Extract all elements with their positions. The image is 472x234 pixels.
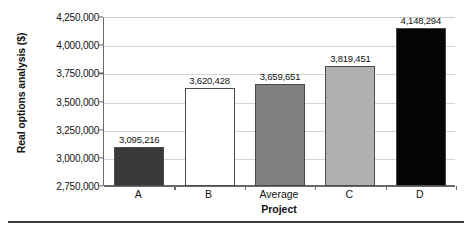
- bar-value-label: 4,148,294: [401, 15, 441, 26]
- bar-value-label: 3,659,651: [260, 71, 300, 82]
- x-axis-tick-label: B: [173, 188, 243, 200]
- x-axis-tick-label: D: [385, 188, 455, 200]
- y-axis-tick-label: 3,750,000: [0, 68, 99, 79]
- x-axis-tick-label: C: [314, 188, 384, 200]
- bar-group: 3,659,651: [245, 18, 315, 186]
- bar-a[interactable]: [114, 147, 164, 186]
- bar-chart-figure: Real options analysis ($) 2,750,0003,000…: [0, 0, 472, 234]
- bar-group: 3,095,216: [104, 18, 174, 186]
- bar-c[interactable]: [325, 66, 375, 186]
- bar-average[interactable]: [255, 84, 305, 186]
- y-axis-tick-label: 4,250,000: [0, 12, 99, 23]
- x-axis-tick-label: A: [103, 188, 173, 200]
- footer-divider: [8, 221, 464, 223]
- bar-group: 4,148,294: [386, 18, 456, 186]
- x-axis-tick-label: Average: [244, 188, 314, 200]
- bar-b[interactable]: [185, 88, 235, 186]
- bar-group: 3,819,451: [315, 18, 385, 186]
- y-axis-ticks: 2,750,0003,000,0003,250,0003,500,0003,75…: [0, 0, 99, 234]
- plot-area: 3,095,2163,620,4283,659,6513,819,4514,14…: [103, 17, 455, 186]
- y-axis-tick-label: 2,750,000: [0, 181, 99, 192]
- y-axis-tick-label: 4,000,000: [0, 40, 99, 51]
- y-axis-tick-label: 3,500,000: [0, 96, 99, 107]
- bar-group: 3,620,428: [174, 18, 244, 186]
- bar-value-label: 3,819,451: [330, 53, 370, 64]
- x-axis-tick-mark: [456, 186, 457, 190]
- y-axis-tick-label: 3,000,000: [0, 152, 99, 163]
- bar-value-label: 3,095,216: [119, 134, 159, 145]
- x-axis-title: Project: [103, 203, 455, 215]
- y-axis-tick-label: 3,250,000: [0, 124, 99, 135]
- bar-d[interactable]: [396, 28, 446, 186]
- bar-value-label: 3,620,428: [189, 75, 229, 86]
